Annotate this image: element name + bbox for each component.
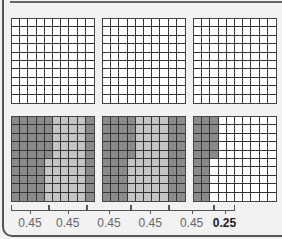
grid-cell [28, 184, 36, 192]
grid-cell [202, 142, 210, 150]
grid-cell [86, 44, 94, 52]
grid-cell [69, 142, 77, 150]
grid-cell [243, 78, 251, 86]
grid-cell [202, 151, 210, 159]
grid-cell [111, 36, 119, 44]
grid-cell [45, 95, 53, 103]
grid-cell [210, 19, 218, 27]
grid-cell [28, 176, 36, 184]
grid-cell [227, 27, 235, 35]
grid-cell [53, 193, 61, 201]
grid-cell [136, 53, 144, 61]
grid-cell [243, 193, 251, 201]
grid-cell [202, 78, 210, 86]
grid-cell [20, 95, 28, 103]
segment-label: 0.45 [89, 216, 129, 230]
grid-cell [136, 61, 144, 69]
grid-cell [37, 193, 45, 201]
grid-cell [128, 69, 136, 77]
grid-cell [152, 44, 160, 52]
grid-cell [210, 69, 218, 77]
grid-cell [235, 86, 243, 94]
grid-cell [53, 36, 61, 44]
grid-cell [243, 125, 251, 133]
grid-cell [227, 159, 235, 167]
grid-cell [194, 134, 202, 142]
grid-cell [144, 176, 152, 184]
grid-cell [86, 95, 94, 103]
grid-cell [260, 61, 268, 69]
grid-cell [202, 86, 210, 94]
grid-cell [144, 19, 152, 27]
grid-cell [227, 125, 235, 133]
grid-cell [152, 19, 160, 27]
grid-cell [119, 193, 127, 201]
grid-cell [144, 134, 152, 142]
grid-cell [144, 193, 152, 201]
grid-cell [260, 95, 268, 103]
grid-cell [20, 151, 28, 159]
grid-cell [144, 125, 152, 133]
grid-cell [103, 193, 111, 201]
grid-cell [152, 95, 160, 103]
grid-cell [210, 167, 218, 175]
grid-cell [251, 134, 259, 142]
grid-cell [144, 61, 152, 69]
grid-cell [235, 142, 243, 150]
grid-cell [202, 159, 210, 167]
grid-cell [235, 53, 243, 61]
grid-cell [111, 27, 119, 35]
grid-cell [103, 61, 111, 69]
grid-cell [194, 95, 202, 103]
grid-cell [103, 159, 111, 167]
grid-cell [86, 53, 94, 61]
grid-cell [177, 151, 185, 159]
grid-cell [12, 159, 20, 167]
grid-cell [103, 27, 111, 35]
grid-cell [53, 53, 61, 61]
grid-cell [235, 176, 243, 184]
grid-cell [111, 193, 119, 201]
grid-cell [194, 193, 202, 201]
grid-cell [86, 176, 94, 184]
grid-cell [86, 117, 94, 125]
grid-cell [86, 27, 94, 35]
grid-cell [243, 151, 251, 159]
grid-cell [144, 167, 152, 175]
grid-cell [119, 44, 127, 52]
grid-cell [86, 159, 94, 167]
grid-cell [69, 69, 77, 77]
grid-cell [136, 184, 144, 192]
top-grid-1 [11, 18, 95, 104]
grid-cell [12, 44, 20, 52]
grid-cell [210, 86, 218, 94]
grid-cell [53, 86, 61, 94]
grid-cell [28, 36, 36, 44]
grid-cell [169, 159, 177, 167]
grid-cell [53, 95, 61, 103]
grid-cell [45, 69, 53, 77]
grid-cell [194, 61, 202, 69]
grid-cell [160, 134, 168, 142]
grid-cell [219, 176, 227, 184]
grid-cell [28, 117, 36, 125]
segment-bracket [169, 205, 214, 211]
grid-cell [227, 53, 235, 61]
grid-cell [194, 19, 202, 27]
grid-cell [243, 69, 251, 77]
grid-cell [152, 125, 160, 133]
grid-cell [103, 78, 111, 86]
grid-cell [235, 36, 243, 44]
grid-cell [61, 95, 69, 103]
grid-cell [268, 27, 276, 35]
grid-cell [210, 151, 218, 159]
grid-cell [235, 134, 243, 142]
grid-cell [219, 19, 227, 27]
grid-cell [69, 193, 77, 201]
grid-cell [61, 184, 69, 192]
grid-cell [20, 78, 28, 86]
grid-cell [160, 19, 168, 27]
grid-cell [69, 151, 77, 159]
grid-cell [61, 142, 69, 150]
grid-cell [260, 27, 268, 35]
